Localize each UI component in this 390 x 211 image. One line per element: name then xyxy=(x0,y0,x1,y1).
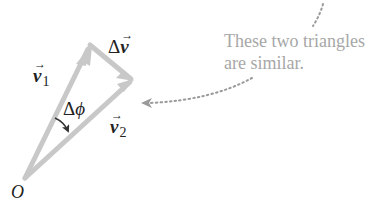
similar-triangles-diagram: →v1 Δ→v Δϕ →v2 O These two triangles are… xyxy=(0,0,390,211)
dotted-leader-top xyxy=(313,4,323,26)
delta-symbol: Δ xyxy=(63,98,75,119)
phi-symbol: ϕ xyxy=(75,98,85,119)
label-delta-phi: Δϕ xyxy=(63,99,85,118)
note-line-1: These two triangles xyxy=(224,30,365,52)
label-delta-v: Δ→v xyxy=(108,37,129,56)
similar-triangles-note: These two triangles are similar. xyxy=(224,30,365,74)
vector-arrow-glyph: → xyxy=(34,58,46,70)
delta-symbol: Δ xyxy=(108,36,120,57)
vector-arrow-glyph: → xyxy=(121,29,133,41)
v2-subscript: 2 xyxy=(119,125,126,140)
label-v1: →v1 xyxy=(33,66,49,89)
vector-arrow-glyph: → xyxy=(111,109,123,121)
v1-subscript: 1 xyxy=(42,74,49,89)
dotted-leader-arrow xyxy=(150,78,252,103)
angle-arrow-icon xyxy=(55,118,68,131)
label-origin: O xyxy=(11,183,24,201)
label-v2: →v2 xyxy=(110,117,126,140)
note-line-2: are similar. xyxy=(224,52,365,74)
